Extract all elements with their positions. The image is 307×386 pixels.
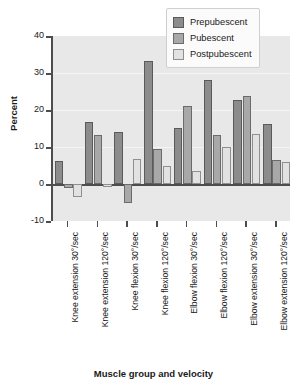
bar bbox=[103, 184, 112, 187]
legend-swatch-icon-prepubescent bbox=[173, 17, 184, 28]
y-axis-tick bbox=[46, 110, 51, 112]
x-axis-tick bbox=[97, 221, 99, 227]
gridline bbox=[52, 110, 290, 111]
y-axis-tick-label: -10 bbox=[4, 215, 44, 225]
bar bbox=[133, 159, 142, 184]
bar bbox=[114, 132, 123, 184]
bar bbox=[282, 162, 291, 184]
bar bbox=[243, 96, 252, 184]
bar bbox=[94, 135, 103, 184]
bar bbox=[73, 184, 82, 197]
zero-baseline bbox=[52, 184, 290, 186]
y-axis-tick-label: 20 bbox=[4, 104, 44, 114]
gridline bbox=[52, 73, 290, 74]
y-axis-tick-label: 0 bbox=[4, 178, 44, 188]
legend-label-prepubescent: Prepubescent bbox=[190, 17, 247, 27]
x-axis-tick-label: Knee extension 120°/sec bbox=[100, 232, 110, 327]
bar bbox=[272, 160, 281, 184]
x-axis-tick bbox=[126, 221, 128, 227]
y-axis-tick-label: 40 bbox=[4, 30, 44, 40]
legend-item-pubescent[interactable]: Pubescent bbox=[173, 30, 252, 46]
legend-swatch-icon-pubescent bbox=[173, 33, 184, 44]
legend-item-postpubescent[interactable]: Postpubescent bbox=[173, 46, 252, 62]
x-axis-tick bbox=[275, 221, 277, 227]
x-axis-tick bbox=[67, 221, 69, 227]
y-axis-spine bbox=[51, 36, 53, 221]
legend-item-prepubescent[interactable]: Prepubescent bbox=[173, 14, 252, 30]
bar bbox=[252, 134, 261, 184]
x-axis-tick-label: Elbow extension 30°/sec bbox=[249, 232, 259, 326]
legend: Prepubescent Pubescent Postpubescent bbox=[166, 8, 260, 68]
y-axis-tick bbox=[46, 221, 51, 223]
bar bbox=[124, 184, 133, 203]
bar bbox=[204, 80, 213, 184]
bar bbox=[85, 122, 94, 184]
y-axis-tick-label: 10 bbox=[4, 141, 44, 151]
x-axis-tick bbox=[245, 221, 247, 227]
bar bbox=[233, 100, 242, 184]
x-axis-tick bbox=[216, 221, 218, 227]
bar bbox=[64, 184, 73, 188]
x-axis-tick-label: Elbow flexion 120°/sec bbox=[219, 232, 229, 319]
bar bbox=[55, 161, 64, 184]
bar bbox=[222, 147, 231, 184]
x-axis-tick-label: Knee flexion 120°/sec bbox=[160, 232, 170, 315]
legend-label-postpubescent: Postpubescent bbox=[190, 49, 252, 59]
legend-swatch-icon-postpubescent bbox=[173, 49, 184, 60]
x-axis-tick bbox=[186, 221, 188, 227]
bar bbox=[183, 106, 192, 184]
bar bbox=[153, 149, 162, 184]
y-axis-tick bbox=[46, 73, 51, 75]
bar bbox=[213, 135, 222, 184]
bar bbox=[163, 166, 172, 184]
x-axis-tick-label: Knee flexion 30°/sec bbox=[130, 232, 140, 310]
y-axis-tick-label: 30 bbox=[4, 67, 44, 77]
bar bbox=[192, 171, 201, 184]
bar bbox=[174, 128, 183, 184]
y-axis-tick bbox=[46, 36, 51, 38]
x-axis-tick-label: Knee extension 30°/sec bbox=[70, 232, 80, 322]
x-axis-title: Muscle group and velocity bbox=[0, 368, 307, 379]
x-axis-tick-label: Elbow extension 120°/sec bbox=[279, 232, 289, 331]
bar bbox=[144, 61, 153, 184]
x-axis-tick-label: Elbow flexion 30°/sec bbox=[189, 232, 199, 314]
legend-label-pubescent: Pubescent bbox=[190, 33, 234, 43]
x-axis-tick bbox=[156, 221, 158, 227]
bar-chart: Percent -10010203040 Knee extension 30°/… bbox=[0, 0, 307, 386]
y-axis-tick bbox=[46, 184, 51, 186]
y-axis-tick bbox=[46, 147, 51, 149]
bar bbox=[263, 124, 272, 184]
